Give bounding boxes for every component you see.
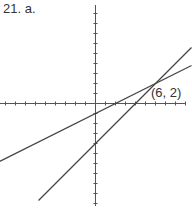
line-2 [39,48,192,201]
intersection-label: (6, 2) [151,85,181,100]
chart-canvas [0,0,192,211]
problem-label: 21. a. [3,1,36,16]
x-axis [0,102,186,106]
y-axis [94,5,98,206]
